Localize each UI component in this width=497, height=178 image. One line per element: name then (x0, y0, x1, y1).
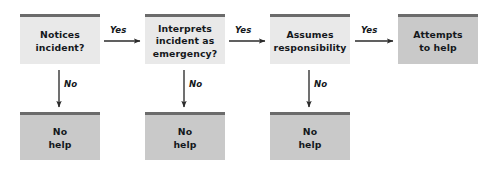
node-line-2: help (173, 139, 196, 151)
node-line-1: No (48, 126, 71, 138)
node-interprets-emergency[interactable]: Interprets incident as emergency? (145, 14, 225, 64)
node-line-3: emergency? (153, 48, 217, 60)
node-line-2: to help (413, 42, 463, 54)
node-line-1: No (173, 126, 196, 138)
node-no-help-2[interactable]: No help (145, 112, 225, 160)
node-assumes-responsibility[interactable]: Assumes responsibility (270, 14, 350, 64)
arrow-label-no-2: No (189, 79, 202, 89)
arrow-label-yes-2: Yes (235, 25, 251, 35)
node-line-1: Attempts (413, 29, 463, 41)
node-no-help-1[interactable]: No help (20, 112, 100, 160)
node-attempts-to-help[interactable]: Attempts to help (398, 14, 478, 64)
node-line-2: responsibility (274, 42, 347, 54)
arrow-label-yes-3: Yes (361, 25, 377, 35)
arrow-label-no-1: No (64, 79, 77, 89)
node-line-1: Interprets (153, 23, 217, 35)
node-line-1: Notices (36, 29, 85, 41)
node-notices-incident[interactable]: Notices incident? (20, 14, 100, 64)
arrow-label-yes-1: Yes (110, 25, 126, 35)
node-line-2: help (48, 139, 71, 151)
flowchart-diagram: Notices incident? Interprets incident as… (0, 0, 497, 178)
node-line-2: incident as (153, 35, 217, 47)
node-line-1: No (298, 126, 321, 138)
node-no-help-3[interactable]: No help (270, 112, 350, 160)
node-line-2: incident? (36, 42, 85, 54)
node-line-2: help (298, 139, 321, 151)
arrow-label-no-3: No (314, 79, 327, 89)
node-line-1: Assumes (274, 29, 347, 41)
